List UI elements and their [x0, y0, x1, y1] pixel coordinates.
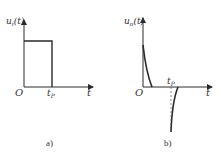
y-label-b: uo(t): [124, 16, 145, 27]
origin-label-a: O: [15, 87, 23, 98]
origin-label-b: O: [135, 87, 143, 98]
positive-decay-curve: [143, 45, 152, 87]
x-label-a: t: [87, 87, 92, 98]
tp-label-a: tP: [47, 88, 56, 99]
x-label-b: t: [206, 87, 211, 98]
caption-a: a): [46, 138, 53, 148]
caption-b: b): [164, 138, 172, 148]
waveform-diagram: ui(t) O tP t a) uo(t) O tP t b): [0, 0, 221, 157]
tp-label-b: tP: [167, 76, 176, 87]
input-pulse: [24, 41, 52, 87]
figure-b: uo(t) O tP t b): [124, 16, 212, 148]
negative-decay-curve: [171, 87, 178, 132]
y-label-a: ui(t): [6, 16, 25, 27]
figure-a: ui(t) O tP t a): [6, 16, 93, 148]
